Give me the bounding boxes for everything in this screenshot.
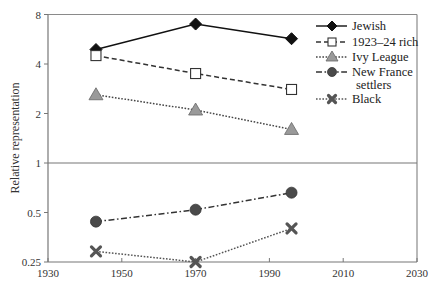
diamond-marker: [190, 18, 202, 30]
y-axis-label: Relative representation: [8, 83, 22, 194]
legend-item: 1923–24 rich: [316, 35, 419, 49]
series-ivy-league: [89, 88, 299, 135]
triangle-marker: [285, 122, 299, 134]
x-tick-label: 2010: [332, 267, 355, 279]
chart: 0.250.51248193019501970199020102030 Jewi…: [0, 0, 439, 287]
x-tick-label: 1930: [37, 267, 60, 279]
legend-label: Black: [352, 92, 382, 106]
legend-label: settlers: [356, 78, 392, 92]
legend-label: Ivy League: [352, 50, 409, 64]
series-new-france-settlers: [90, 187, 297, 227]
x-marker: [287, 224, 296, 233]
square-marker: [191, 69, 201, 79]
diamond-marker: [327, 21, 337, 31]
square-marker: [328, 38, 336, 46]
legend-item: Jewish: [316, 19, 387, 33]
legend: Jewish1923–24 richIvy LeagueNew Francese…: [316, 19, 419, 106]
legend-item: Ivy League: [316, 50, 409, 64]
square-marker: [287, 84, 297, 94]
series-layer: [89, 18, 299, 266]
legend-label: Jewish: [352, 19, 387, 33]
legend-label: 1923–24 rich: [352, 35, 419, 49]
y-tick-label: 2: [36, 108, 42, 120]
x-tick-label: 2030: [406, 267, 429, 279]
circle-marker: [190, 204, 201, 215]
circle-marker: [286, 187, 297, 198]
series-jewish: [90, 18, 298, 55]
circle-marker: [328, 68, 337, 77]
circle-marker: [90, 216, 101, 227]
y-tick-label: 8: [36, 9, 42, 21]
legend-item: Black: [316, 92, 382, 106]
series-1923-24-rich: [91, 51, 297, 95]
square-marker: [91, 51, 101, 61]
x-marker: [91, 247, 100, 256]
triangle-marker: [326, 51, 338, 61]
y-tick-label: 4: [36, 58, 42, 70]
chart-canvas: 0.250.51248193019501970199020102030 Jewi…: [0, 0, 439, 287]
x-tick-label: 1950: [111, 267, 134, 279]
x-tick-label: 1970: [185, 267, 208, 279]
series-line: [96, 228, 292, 262]
y-tick-label: 0.5: [27, 207, 41, 219]
diamond-marker: [286, 33, 298, 45]
legend-item: New Francesettlers: [316, 65, 413, 92]
y-tick-label: 1: [36, 157, 42, 169]
triangle-marker: [89, 88, 103, 100]
triangle-marker: [189, 103, 203, 115]
x-tick-label: 1990: [258, 267, 281, 279]
